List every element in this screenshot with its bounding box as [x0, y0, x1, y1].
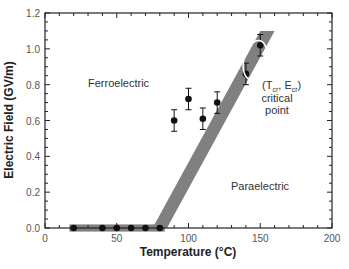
phase-diagram-chart: 0501001502000.00.20.40.60.81.01.2 Ferroe… [0, 0, 349, 269]
plot-frame [45, 13, 332, 228]
x-tick-label: 150 [252, 233, 269, 244]
data-point [171, 117, 178, 124]
y-tick-label: 0.0 [26, 223, 40, 234]
y-tick-label: 1.0 [26, 44, 40, 55]
x-tick-label: 100 [180, 233, 197, 244]
x-tick-label: 0 [42, 233, 48, 244]
critical-point-coords: (Tcr, Ecr) [262, 79, 301, 93]
y-tick-label: 0.4 [26, 151, 40, 162]
paraelectric-label: Paraelectric [231, 180, 290, 192]
tick-labels: 0501001502000.00.20.40.60.81.01.2 [26, 8, 341, 244]
critical-label: critical [261, 92, 292, 104]
point-label: point [265, 104, 289, 116]
data-point [214, 99, 221, 106]
y-axis-title: Electric Field (GV/m) [2, 61, 16, 178]
data-point [200, 115, 207, 122]
data-point [142, 225, 149, 232]
data-point [99, 225, 106, 232]
x-tick-label: 50 [111, 233, 123, 244]
band-diagonal [153, 31, 275, 228]
plot-axes [45, 13, 332, 228]
x-axis-title: Temperature (°C) [140, 245, 237, 259]
data-point [128, 225, 135, 232]
data-point [157, 225, 164, 232]
y-tick-label: 0.6 [26, 116, 40, 127]
data-point [70, 225, 77, 232]
y-tick-label: 0.8 [26, 80, 40, 91]
y-tick-label: 0.2 [26, 187, 40, 198]
data-point [113, 225, 120, 232]
x-tick-label: 200 [324, 233, 341, 244]
data-point [257, 42, 264, 49]
data-point [185, 96, 192, 103]
ferroelectric-label: Ferroelectric [88, 77, 150, 89]
y-tick-label: 1.2 [26, 8, 40, 19]
